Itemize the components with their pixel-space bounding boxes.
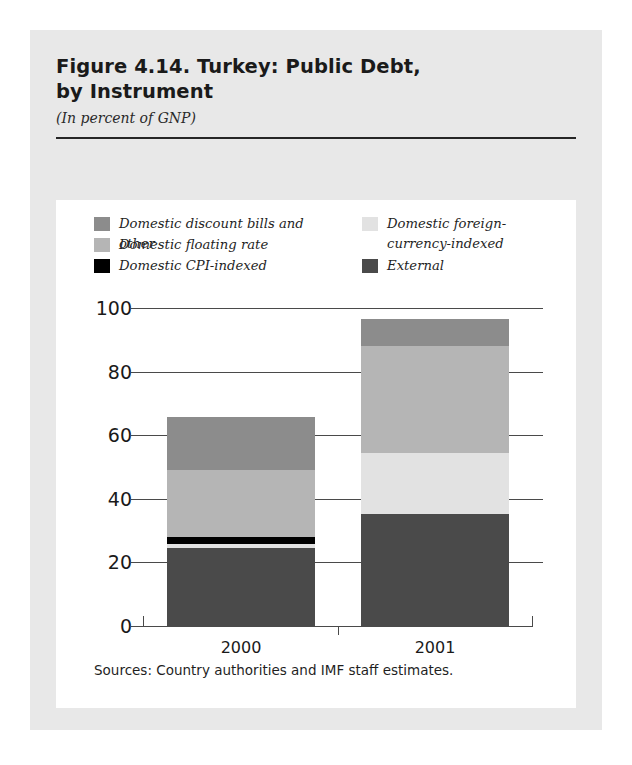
- y-tick-label-20: 20: [108, 551, 132, 573]
- figure-page: Figure 4.14. Turkey: Public Debt, by Ins…: [0, 0, 632, 765]
- y-tick-0: [131, 626, 144, 627]
- y-tick-60: [131, 435, 144, 436]
- y-tick-label-80: 80: [108, 361, 132, 383]
- title-divider: [56, 137, 576, 139]
- y-tick-label-0: 0: [120, 615, 132, 637]
- y-tick-right-40: [532, 499, 543, 500]
- y-tick-100: [131, 308, 144, 309]
- y-tick-right-80: [532, 372, 543, 373]
- source-note: Sources: Country authorities and IMF sta…: [94, 662, 453, 678]
- figure-subtitle: (In percent of GNP): [56, 110, 576, 126]
- y-tick-right-20: [532, 562, 543, 563]
- figure-title-line-1: Figure 4.14. Turkey: Public Debt,: [56, 54, 576, 79]
- bar-segment-2001-domestic-discount-bills-and-other[interactable]: [361, 319, 509, 346]
- y-tick-right-100: [532, 308, 543, 309]
- plot-card: Domestic discount bills and other Domest…: [56, 200, 576, 708]
- y-tick-label-100: 100: [96, 297, 132, 319]
- bar-2000[interactable]: [167, 417, 315, 626]
- x-axis-end-tick: [532, 616, 533, 627]
- bar-segment-2000-domestic-foreign-currency-indexed[interactable]: [167, 544, 315, 548]
- y-tick-80: [131, 372, 144, 373]
- bar-segment-2000-external[interactable]: [167, 548, 315, 626]
- y-tick-40: [131, 499, 144, 500]
- figure-frame: Figure 4.14. Turkey: Public Debt, by Ins…: [30, 30, 602, 730]
- x-tick-label-2001: 2001: [415, 638, 456, 657]
- bar-segment-2000-domestic-discount-bills-and-other[interactable]: [167, 417, 315, 470]
- bar-2001[interactable]: [361, 319, 509, 626]
- bar-segment-2000-domestic-floating-rate[interactable]: [167, 470, 315, 537]
- figure-inner: Figure 4.14. Turkey: Public Debt, by Ins…: [56, 52, 576, 708]
- bar-segment-2001-external[interactable]: [361, 514, 509, 626]
- bar-segment-2001-domestic-floating-rate[interactable]: [361, 346, 509, 453]
- bar-chart: 02040608010020002001: [56, 200, 576, 708]
- figure-title: Figure 4.14. Turkey: Public Debt, by Ins…: [56, 52, 576, 104]
- x-tick-label-2000: 2000: [221, 638, 262, 657]
- gridline-100: [144, 308, 532, 309]
- y-tick-right-60: [532, 435, 543, 436]
- figure-title-line-2: by Instrument: [56, 79, 576, 104]
- y-tick-20: [131, 562, 144, 563]
- x-axis-mid-tick: [338, 626, 339, 635]
- y-tick-label-60: 60: [108, 424, 132, 446]
- y-tick-label-40: 40: [108, 488, 132, 510]
- bar-segment-2000-domestic-cpi-indexed[interactable]: [167, 537, 315, 544]
- plot-area: 02040608010020002001: [144, 308, 532, 626]
- bar-segment-2001-domestic-foreign-currency-indexed[interactable]: [361, 453, 509, 514]
